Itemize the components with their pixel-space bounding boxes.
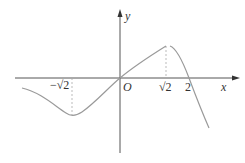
tick-label-two: 2	[185, 81, 191, 93]
y-axis-arrow-icon	[118, 9, 123, 17]
x-axis-arrow-icon	[232, 76, 240, 81]
tick-label-sqrt2: √2	[159, 81, 172, 93]
tick-label-neg-sqrt2: −√2	[50, 79, 69, 91]
curve-left-branch	[22, 46, 166, 115]
x-axis-label: x	[221, 81, 226, 93]
y-axis-label: y	[125, 10, 130, 22]
origin-label: O	[123, 81, 132, 93]
